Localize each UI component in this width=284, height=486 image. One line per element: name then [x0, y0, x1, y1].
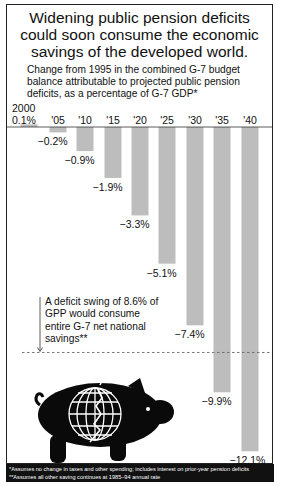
- value-label: −0.2%: [38, 135, 68, 147]
- x-tick-label: '05: [43, 114, 73, 126]
- chart-canvas: [0, 0, 284, 486]
- bar-30: [187, 127, 204, 325]
- x-tick-label: '35: [207, 114, 237, 126]
- x-tick-label: 2000: [12, 102, 42, 114]
- x-tick-label: '20: [125, 114, 155, 126]
- threshold-annotation: A deficit swing of 8.6% of GPP would con…: [45, 296, 165, 346]
- value-label: −5.1%: [147, 267, 177, 279]
- footnotes: *Assumes no change in taxes and other sp…: [6, 464, 274, 482]
- bar-10: [77, 127, 94, 151]
- x-tick-label: '25: [152, 114, 182, 126]
- value-label: −0.9%: [65, 154, 95, 166]
- x-tick-label: '10: [70, 114, 100, 126]
- x-tick-label: '30: [180, 114, 210, 126]
- bar-05: [50, 127, 67, 132]
- globe-icon: [69, 388, 121, 440]
- x-tick-label: '40: [235, 114, 265, 126]
- x-tick-label: '15: [98, 114, 128, 126]
- value-label: −7.4%: [175, 328, 205, 340]
- bar-20: [132, 127, 149, 215]
- bar-25: [159, 127, 176, 264]
- footnote-1: *Assumes no change in taxes and other sp…: [9, 465, 271, 473]
- bar-chart: 20000.1%'05−0.2%'10−0.9%'15−1.9%'20−3.3%…: [0, 0, 284, 486]
- value-label: −9.9%: [202, 395, 232, 407]
- value-label: −1.9%: [93, 181, 123, 193]
- value-label: 0.1%: [12, 114, 36, 126]
- bar-40: [242, 127, 259, 451]
- footnote-2: **Assumes all other saving continues at …: [9, 473, 271, 481]
- value-label: −3.3%: [120, 218, 150, 230]
- bar-15: [105, 127, 122, 178]
- piggy-bank-icon: [36, 376, 174, 463]
